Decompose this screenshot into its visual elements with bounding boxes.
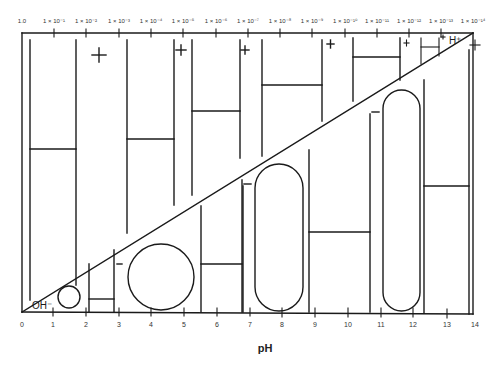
bottom-tick-label: 4 [149,321,153,328]
h-plus-glyph-6 [421,35,445,64]
h-plus-glyph-4 [262,40,334,156]
top-tick-label: 1 × 10⁻¹⁴ [461,18,486,24]
bottom-tick-label: 12 [409,321,417,328]
top-tick-label: 1 × 10⁻⁷ [237,18,259,24]
h-plus-label: H⁺ [449,35,461,46]
bottom-tick-label: 1 [51,321,55,328]
bottom-tick-label: 10 [344,321,352,328]
bottom-tick-label: 0 [20,321,24,328]
h-plus-glyph-1 [30,40,106,300]
oh-minus-glyph-1 [58,250,114,312]
top-tick-label: 1 × 10⁻⁵ [172,18,195,24]
x-axis-title: pH [258,342,273,354]
oh-minus-glyph-2 [117,180,242,312]
top-tick-label: 1 × 10⁻¹¹ [365,18,389,24]
h-plus-glyph-2 [127,40,186,233]
top-tick-label: 1 × 10⁻¹ [43,18,65,24]
h-plus-glyph-5 [353,38,409,101]
bottom-tick-label: 13 [443,321,451,328]
ph-ion-diagram: 1.0 1 × 10⁻¹ 1 × 10⁻² 1 × 10⁻³ 1 × 10⁻⁴ … [0,0,503,367]
bottom-tick-label: 14 [471,321,479,328]
top-tick-label: 1 × 10⁻⁴ [140,18,163,24]
top-tick-label: 1 × 10⁻³ [108,18,130,24]
top-tick-labels: 1.0 1 × 10⁻¹ 1 × 10⁻² 1 × 10⁻³ 1 × 10⁻⁴ … [18,18,486,24]
oh-minus-glyphs: OH⁻ [32,50,469,314]
bottom-tick-label: 6 [215,321,219,328]
top-tick-label: 1 × 10⁻² [75,18,97,24]
bottom-tick-label: 7 [248,321,252,328]
oh-minus-glyph-4 [372,50,469,314]
bottom-tick-label: 5 [182,321,186,328]
bottom-tick-label: 8 [280,321,284,328]
top-tick-label: 1 × 10⁻¹³ [429,18,453,24]
bottom-tick-label: 2 [84,321,88,328]
h-plus-glyph-3 [192,40,249,195]
bottom-tick-labels: 0 1 2 3 4 5 6 7 8 9 10 11 12 13 14 [20,321,479,328]
top-tick-label: 1 × 10⁻⁶ [205,18,228,24]
top-tick-label: 1 × 10⁻⁹ [301,18,324,24]
bottom-tick-label: 11 [377,321,384,328]
oh-minus-label: OH⁻ [32,300,52,311]
bottom-tick-label: 3 [117,321,121,328]
bottom-tick-label: 9 [313,321,317,328]
top-tick-label: 1 × 10⁻⁸ [269,18,292,24]
top-tick-label: 1 × 10⁻¹² [397,18,421,24]
top-tick-label: 1.0 [18,18,27,24]
top-tick-label: 1 × 10⁻¹⁰ [333,18,358,24]
